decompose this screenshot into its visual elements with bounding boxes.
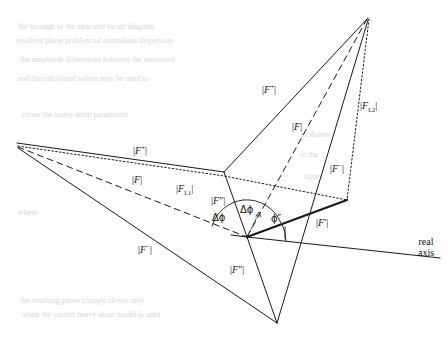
label-f-plus-right: |F+| — [262, 84, 276, 95]
label-f-dprime-upper: |F″| — [211, 196, 225, 206]
label-phi-dprime: ϕ″ — [271, 214, 281, 224]
label-f-minus-left: |F−| — [138, 244, 152, 255]
line-f-dprime-lower — [247, 237, 277, 323]
label-f-l2: |FL2| — [360, 101, 377, 114]
vector-f-prime-bold — [247, 200, 347, 237]
label-f-l1: |FL1| — [176, 184, 193, 197]
label-f-plus-left: |F+| — [133, 145, 147, 156]
real-axis-label-line1: real — [406, 236, 446, 247]
line-f-plus-left — [17, 143, 224, 172]
label-f-right: |F| — [292, 122, 302, 132]
label-f-minus-right: |F−| — [330, 163, 344, 174]
label-f-left: |F| — [132, 175, 142, 185]
real-axis-label-line2: axis — [406, 247, 446, 258]
real-axis-label: real axis — [406, 236, 446, 258]
phase-diagram-svg — [0, 0, 447, 340]
label-delta-phi-right: Δϕ — [240, 205, 253, 215]
label-delta-phi-left: Δϕ — [212, 213, 225, 223]
figure-canvas: the through of the structure factor diag… — [0, 0, 447, 340]
line-f-minus-right — [277, 20, 368, 323]
label-f-prime: |F′| — [316, 218, 328, 228]
label-f-dprime-lower: |F″| — [230, 265, 244, 275]
